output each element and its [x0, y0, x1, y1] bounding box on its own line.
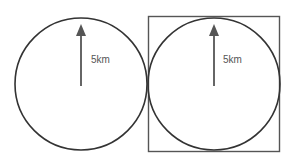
diagram-canvas: 5km 5km [0, 0, 290, 165]
arrow-head-icon-right [209, 24, 219, 36]
figure-circle-only: 5km [15, 18, 147, 150]
arrow-head-icon-left [76, 24, 86, 36]
figure-circle-in-square: 5km [148, 17, 280, 152]
radius-label-right: 5km [223, 54, 242, 65]
radius-label-left: 5km [91, 54, 110, 65]
